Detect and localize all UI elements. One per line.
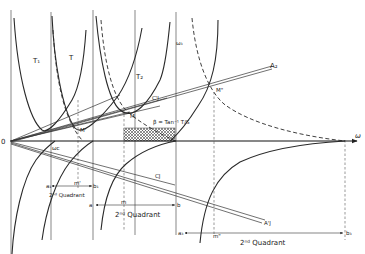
point-label-m-small-3: m" [213,233,221,239]
point-label-m-double: M" [216,87,223,93]
diagram-canvas: 0 ω T₁ T T₂ A₂ C'J CJ A'J M' M M" ωc ω₃ … [0,0,365,254]
curve-label-t1: T₁ [32,57,40,65]
quadrant-1-end: b₁ [93,183,99,189]
point-label-omega-c: ωc [52,145,60,151]
dashed-curves [53,18,345,141]
omega-axis-label: ω [355,132,361,140]
ray-label-aj-lower: A'J [264,220,271,227]
quadrant-2-end: b [177,202,181,208]
point-label-m-small-1: m' [74,180,81,186]
origin-label: 0 [1,138,5,146]
quadrant-3-start: a₃ [178,230,184,236]
quadrant-3-label: 2ⁿᵈ Quadrant [240,239,286,247]
quadrant-dimensions [52,186,343,233]
ray-label-cj-upper: C'J [152,95,159,102]
quadrant-2-label: 2ⁿᵈ Quadrant [115,211,161,219]
vertical-guides [11,10,345,254]
point-label-omega3: ω₃ [176,40,183,46]
hatched-region [124,128,175,141]
ray-label-cj-lower: CJ [155,173,161,180]
point-label-m: M [130,113,135,119]
point-label-m-prime: M' [80,127,86,133]
torque-speed-diagram: 0 ω T₁ T T₂ A₂ C'J CJ A'J M' M M" ωc ω₃ … [0,0,365,254]
point-label-m-small-2: m [121,199,126,205]
quadrant-1-label: 2ⁿᵈ Quadrant [49,192,85,198]
curve-label-t2: T₂ [135,73,143,81]
quadrant-1-start: a₁ [46,183,52,189]
ray-label-a2: A₂ [270,62,278,70]
quadrant-2-start: a [89,202,92,208]
beta-annotation: β = Tan⁻¹ T/S [153,119,190,126]
quadrant-3-end: b₃ [346,230,352,236]
curve-label-t: T [68,54,74,62]
